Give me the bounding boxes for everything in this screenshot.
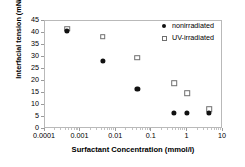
x-tick-minor (184, 128, 185, 130)
x-tick-minor (74, 128, 75, 130)
filled-circle-marker-icon (158, 24, 170, 28)
legend-item-uv-irradiated: UV-irradiated (158, 33, 214, 43)
data-point-uv-irradiated (184, 90, 190, 96)
x-tick-minor (125, 128, 126, 130)
x-tick-minor (167, 128, 168, 130)
x-tick-minor (203, 128, 204, 130)
x-tick-minor (132, 128, 133, 130)
legend: nonirradiated UV-irradiated (158, 21, 214, 45)
x-tick-minor (142, 128, 143, 130)
x-tick-minor (211, 128, 212, 130)
x-tick-minor (54, 128, 55, 130)
x-tick-minor (180, 128, 181, 130)
x-tick-minor (175, 128, 176, 130)
x-tick-minor (65, 128, 66, 130)
y-tick-mark (41, 32, 44, 33)
y-tick-mark (41, 80, 44, 81)
x-tick-minor (214, 128, 215, 130)
x-tick-minor (68, 128, 69, 130)
y-tick-mark (41, 92, 44, 93)
x-tick-minor (113, 128, 114, 130)
y-tick-mark (41, 116, 44, 117)
x-axis-label: Surfactant Concentration (mmol/l) (44, 145, 222, 154)
y-tick-mark (41, 44, 44, 45)
x-tick-minor (145, 128, 146, 130)
x-tick-minor (60, 128, 61, 130)
x-tick-minor (207, 128, 208, 130)
x-tick-minor (101, 128, 102, 130)
x-tick-minor (90, 128, 91, 130)
data-point-uv-irradiated (100, 34, 106, 40)
x-tick-minor (109, 128, 110, 130)
x-tick-label: 10 (200, 132, 244, 140)
x-tick-minor (140, 128, 141, 130)
x-tick-minor (197, 128, 198, 130)
x-tick-minor (172, 128, 173, 130)
interfacial-tension-scatter-chart: 051015202530354045 0.00010.0010.010.1110… (0, 0, 245, 167)
x-tick-minor (107, 128, 108, 130)
y-tick-mark (41, 20, 44, 21)
x-tick-minor (216, 128, 217, 130)
legend-item-nonirradiated: nonirradiated (158, 21, 214, 31)
x-tick-minor (161, 128, 162, 130)
y-tick-label: 5 (0, 112, 39, 119)
x-tick-minor (77, 128, 78, 130)
y-axis-label: Interfacial tension (mN/m) (14, 0, 23, 105)
legend-label: UV-irradiated (172, 34, 214, 42)
x-tick-minor (104, 128, 105, 130)
y-tick-mark (41, 56, 44, 57)
x-tick-minor (71, 128, 72, 130)
open-square-marker-icon (158, 36, 170, 41)
data-point-uv-irradiated (135, 55, 141, 61)
x-tick-minor (220, 128, 221, 130)
x-tick-minor (136, 128, 137, 130)
y-tick-mark (41, 104, 44, 105)
legend-label: nonirradiated (172, 22, 214, 30)
x-tick-minor (178, 128, 179, 130)
data-point-uv-irradiated (171, 80, 177, 86)
x-tick-minor (149, 128, 150, 130)
y-tick-mark (41, 68, 44, 69)
x-tick-minor (96, 128, 97, 130)
